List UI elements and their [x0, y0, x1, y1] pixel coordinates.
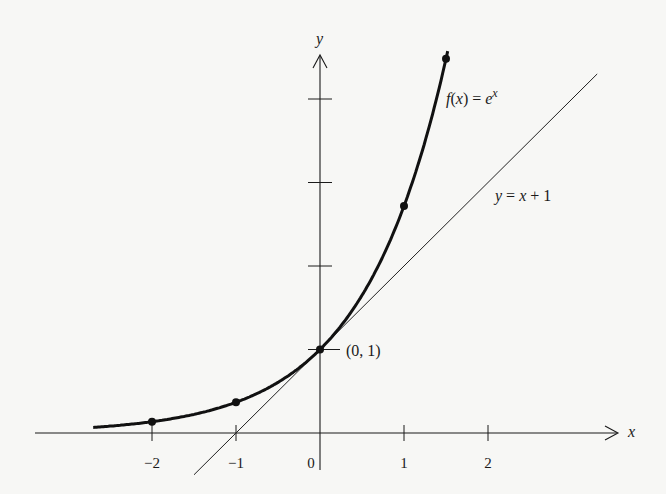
y-axis-label: y	[314, 30, 324, 48]
exponential-curve	[93, 51, 448, 427]
data-point	[442, 55, 450, 63]
tangent-line	[194, 74, 597, 475]
x-tick-label: −2	[144, 455, 160, 471]
x-tick-label: 0	[307, 455, 315, 471]
data-point	[400, 202, 408, 210]
data-point	[148, 418, 156, 426]
tangent-line-label: y = x + 1	[493, 187, 551, 205]
x-tick-label: −1	[228, 455, 244, 471]
exp-curve-label: f(x) = ex	[446, 86, 498, 108]
labels: −2−1012xyf(x) = exy = x + 1(0, 1)	[144, 30, 635, 471]
data-point	[232, 398, 240, 406]
exponential-tangent-chart: −2−1012xyf(x) = exy = x + 1(0, 1)	[0, 0, 666, 494]
x-axis-label: x	[627, 423, 635, 440]
point-annotation: (0, 1)	[346, 342, 381, 360]
data-point	[316, 346, 324, 354]
x-tick-label: 2	[484, 455, 492, 471]
axes	[35, 55, 618, 470]
x-tick-label: 1	[400, 455, 408, 471]
curves	[93, 51, 597, 475]
